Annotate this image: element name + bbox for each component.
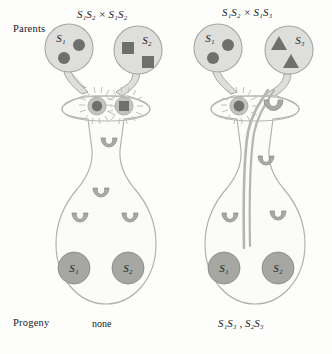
- panel-right: S₁ S₂ S₁ S₃: [194, 24, 313, 304]
- pollen-circle: [222, 39, 234, 51]
- pollen-grain-left-circle: [92, 101, 102, 111]
- seed-label-left-1: S₁: [69, 262, 79, 274]
- anther-label-left-1: S₁: [56, 32, 66, 44]
- filament-right-2: [266, 74, 291, 98]
- pollination-illustration: S₁ S₂ S₁ S₂: [0, 0, 332, 354]
- pollen-circle: [73, 39, 85, 51]
- pollen-circle: [58, 52, 70, 64]
- anther-right-1: [194, 24, 242, 72]
- anther-left-1: [45, 24, 93, 72]
- pollen-circle: [207, 52, 219, 64]
- seed-label-right-2: S₂: [273, 262, 283, 274]
- diagram-canvas: Parents Progeny S₁S₂ × S₁S₂ S₁S₂ × S₁S₃ …: [0, 0, 332, 354]
- anther-label-right-1: S₁: [205, 32, 215, 44]
- anther-label-right-2: S₃: [295, 34, 305, 46]
- anther-left-2: [114, 26, 162, 74]
- filament-left-1b: [64, 70, 88, 94]
- pollen-grain-left-square: [119, 101, 129, 111]
- pollen-square: [122, 42, 134, 54]
- pollen-square: [142, 56, 154, 68]
- anther-label-left-2: S₂: [142, 34, 152, 46]
- filament-right-1: [213, 70, 237, 94]
- seed-label-left-2: S₂: [123, 262, 133, 274]
- panel-left: S₁ S₂ S₁ S₂: [45, 24, 162, 304]
- seed-label-right-1: S₁: [219, 262, 229, 274]
- pollen-grain-right-blocked: [234, 101, 245, 112]
